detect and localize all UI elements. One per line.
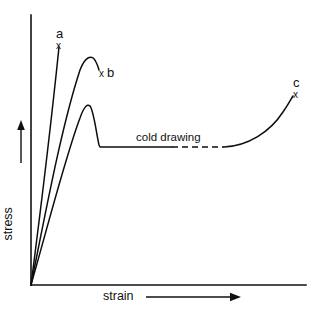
plot-canvas: [0, 0, 323, 320]
curve-endpoint-marker-b: x: [99, 69, 104, 79]
stress-strain-figure: a x x b c x cold drawing stress strain: [0, 0, 323, 320]
cold-drawing-annotation: cold drawing: [136, 132, 201, 144]
y-axis-arrow: [17, 120, 25, 163]
curve-c-solid-upswing: [224, 96, 293, 147]
curve-endpoint-marker-a: x: [56, 41, 61, 51]
curve-label-a: a: [56, 27, 63, 40]
y-axis-title: stress: [2, 207, 15, 240]
curve-label-b: b: [107, 66, 114, 79]
x-axis-arrow: [146, 293, 241, 301]
curve-endpoint-marker-c: x: [293, 90, 298, 100]
curve-label-c: c: [293, 76, 300, 89]
x-axis-title: strain: [103, 290, 134, 303]
